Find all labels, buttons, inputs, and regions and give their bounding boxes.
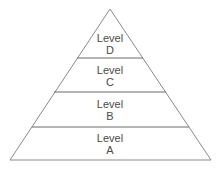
level-b: Level B [97,98,123,122]
level-d-letter: D [106,44,114,56]
level-d-label: Level [97,32,123,44]
level-b-label: Level [97,98,123,110]
level-a: Level A [97,132,123,156]
level-c: Level C [97,64,123,88]
level-b-letter: B [106,110,113,122]
level-d: Level D [97,32,123,56]
pyramid-diagram: Level D Level C Level B Level A [0,0,222,171]
level-a-letter: A [106,144,114,156]
level-c-letter: C [106,76,114,88]
level-c-label: Level [97,64,123,76]
level-a-label: Level [97,132,123,144]
